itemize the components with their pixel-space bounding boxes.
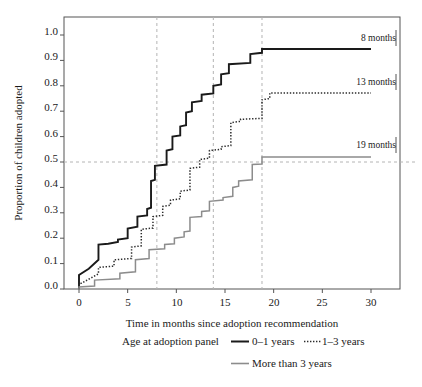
annotation-median-0-1-years: 8 months [361, 33, 396, 43]
x-tick-label-20: 20 [269, 296, 281, 308]
y-tick-label-0.8: 0.8 [44, 76, 58, 88]
y-tick-label-0.5: 0.5 [44, 152, 58, 164]
y-tick-label-0.9: 0.9 [44, 50, 58, 62]
x-tick-label-10: 10 [172, 296, 184, 308]
legend-label-1-3-years: 1–3 years [322, 335, 364, 347]
figure-container: 0 5 10 15 20 25 30 0.0 0.1 0.2 0.3 0.4 0… [0, 0, 422, 387]
x-tick-label-5: 5 [125, 296, 131, 308]
legend-label-more-than-3-years: More than 3 years [252, 357, 332, 369]
x-axis-title: Time in months since adoption recommenda… [126, 317, 339, 329]
y-tick-label-0.4: 0.4 [44, 177, 58, 189]
y-axis-ticks [60, 35, 64, 289]
x-axis-ticks [79, 289, 371, 293]
y-tick-label-0.6: 0.6 [44, 127, 58, 139]
y-tick-label-0.2: 0.2 [44, 228, 58, 240]
x-tick-label-15: 15 [220, 296, 232, 308]
y-tick-label-1.0: 1.0 [44, 25, 58, 37]
y-tick-label-0.0: 0.0 [44, 279, 58, 291]
y-tick-label-0.1: 0.1 [44, 254, 58, 266]
y-axis-title: Proportion of children adopted [12, 85, 24, 221]
x-tick-label-0: 0 [76, 296, 82, 308]
x-tick-label-25: 25 [317, 296, 329, 308]
plot-panel [64, 17, 400, 289]
annotation-median-3-plus-years: 19 months [356, 140, 396, 150]
x-tick-label-30: 30 [366, 296, 378, 308]
legend-label-0-1-years: 0–1 years [252, 335, 294, 347]
annotation-median-1-3-years: 13 months [356, 77, 396, 87]
survival-curve-chart: 0 5 10 15 20 25 30 0.0 0.1 0.2 0.3 0.4 0… [0, 0, 422, 387]
y-tick-label-0.7: 0.7 [44, 101, 58, 113]
y-tick-label-0.3: 0.3 [44, 203, 58, 215]
legend-title: Age at adoption panel [122, 335, 219, 347]
